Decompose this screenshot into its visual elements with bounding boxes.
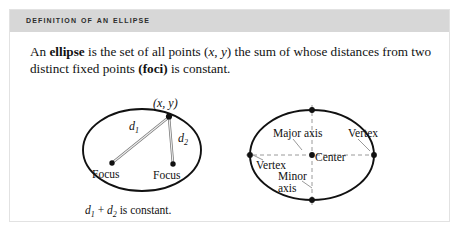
definition-card: Definition of an Ellipse An ellipse is t… (9, 9, 450, 222)
definition-seg-4: ) the sum of whose distances from (227, 44, 408, 59)
covertex-bottom-marker (309, 197, 315, 203)
definition-term-ellipse: ellipse (49, 44, 84, 59)
covertex-top-marker (309, 107, 315, 113)
label-major-axis: Major axis (273, 127, 323, 140)
definition-seg-3: , (214, 44, 221, 59)
leader-minor-axis (302, 181, 312, 188)
label-minor-axis-line1: Minor (278, 170, 307, 182)
definition-text-line1: An ellipse is the set of all points (x, … (30, 44, 408, 59)
definition-header-bar: Definition of an Ellipse (10, 10, 449, 32)
label-vertex-right: Vertex (348, 127, 378, 139)
label-minor-axis-line2: axis (278, 182, 297, 194)
ellipse-axes-figure: Major axis Vertex Vertex Center Minor ax… (10, 86, 451, 223)
vertex-right-marker (371, 152, 377, 158)
definition-header-title: Definition of an Ellipse (26, 14, 150, 25)
definition-seg-6: is constant. (168, 61, 231, 76)
figures-region: (x, y) d1 d2 Focus Focus d1 + d2 is cons… (10, 86, 451, 223)
definition-term-foci: (foci) (138, 61, 167, 76)
vertex-left-marker (247, 152, 253, 158)
leader-major-axis (293, 139, 302, 150)
leader-vertex-right (358, 139, 370, 151)
definition-seg-1: An (30, 44, 49, 59)
definition-paragraph: An ellipse is the set of all points (x, … (30, 44, 435, 77)
definition-seg-2: is the set of all points ( (85, 44, 209, 59)
label-center: Center (315, 151, 346, 163)
